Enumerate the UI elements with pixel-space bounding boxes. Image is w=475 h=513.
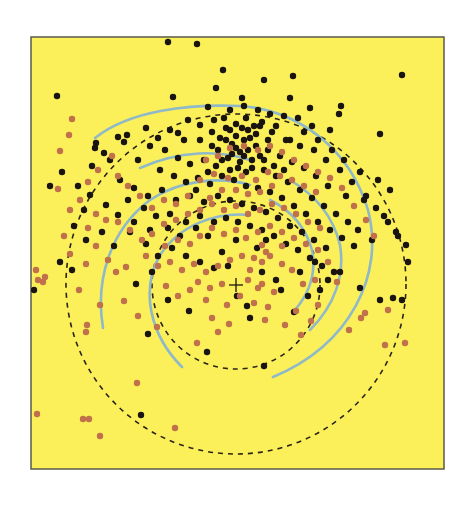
scatter-plot — [0, 0, 475, 513]
plot-frame — [31, 37, 444, 469]
